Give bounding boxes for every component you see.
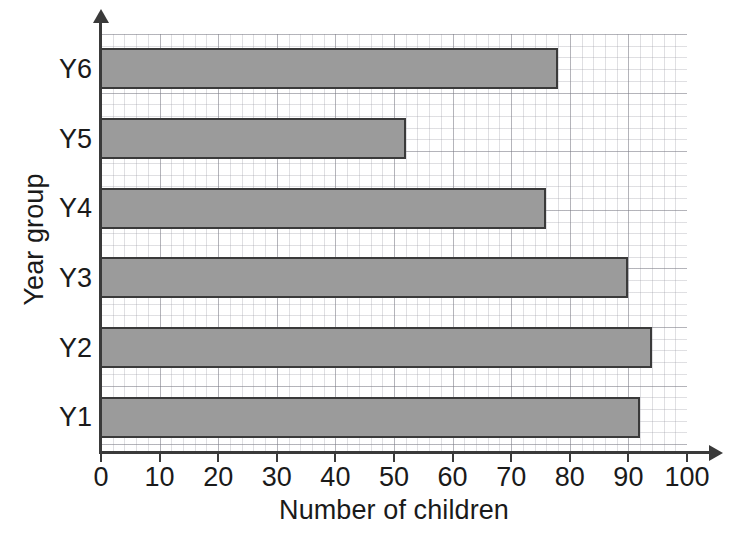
x-axis-tick-30	[276, 452, 278, 462]
x-axis-tick-label-70: 70	[496, 462, 526, 493]
x-axis-title: Number of children	[101, 495, 687, 526]
y-axis-tick-label-y3: Y3	[6, 262, 92, 293]
y-axis-line	[99, 22, 102, 454]
bar-y1	[100, 397, 640, 438]
x-axis-tick-70	[510, 452, 512, 462]
x-axis-tick-0	[100, 452, 102, 462]
x-axis-tick-label-10: 10	[145, 462, 175, 493]
x-axis-tick-label-0: 0	[93, 462, 108, 493]
bar-y6	[100, 48, 558, 89]
x-axis-tick-40	[334, 452, 336, 462]
bar-y2	[100, 327, 652, 368]
x-axis-tick-label-40: 40	[320, 462, 350, 493]
grid-lines	[101, 34, 687, 452]
y-axis-arrow-icon	[93, 9, 109, 23]
x-axis-tick-90	[627, 452, 629, 462]
bar-y4	[100, 188, 546, 229]
y-axis-tick-label-y6: Y6	[6, 53, 92, 84]
bar-y3	[100, 257, 628, 298]
x-axis-tick-label-80: 80	[555, 462, 585, 493]
x-axis-tick-label-50: 50	[379, 462, 409, 493]
y-axis-tick-label-y1: Y1	[6, 402, 92, 433]
y-axis-tick-label-y4: Y4	[6, 193, 92, 224]
x-axis-tick-labels: 0102030405060708090100	[0, 462, 736, 498]
x-axis-tick-50	[393, 452, 395, 462]
x-axis-tick-60	[452, 452, 454, 462]
y-axis-tick-label-y2: Y2	[6, 332, 92, 363]
y-axis-tick-label-y5: Y5	[6, 123, 92, 154]
x-axis-line	[101, 451, 711, 454]
x-axis-tick-label-100: 100	[664, 462, 709, 493]
bar-chart: Year group Y1Y2Y3Y4Y5Y6 0102030405060708…	[0, 0, 736, 543]
x-axis-tick-label-90: 90	[613, 462, 643, 493]
bar-y5	[100, 118, 406, 159]
plot-area	[101, 34, 687, 452]
x-axis-tick-10	[159, 452, 161, 462]
x-axis-tick-100	[686, 452, 688, 462]
x-axis-tick-80	[569, 452, 571, 462]
x-axis-tick-label-20: 20	[203, 462, 233, 493]
x-axis-arrow-icon	[709, 445, 723, 461]
x-axis-tick-label-30: 30	[262, 462, 292, 493]
x-axis-tick-20	[217, 452, 219, 462]
x-axis-tick-label-60: 60	[438, 462, 468, 493]
